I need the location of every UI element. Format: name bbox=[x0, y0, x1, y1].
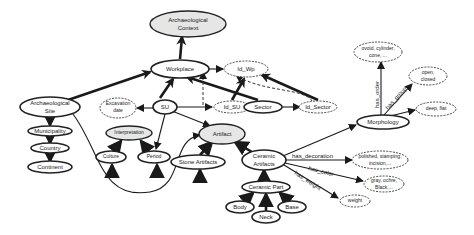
node-su[interactable]: SU bbox=[153, 100, 177, 114]
edge-ceramic-morphology bbox=[283, 125, 356, 156]
svg-text:Artifacts: Artifacts bbox=[253, 161, 275, 167]
node-neck[interactable]: Neck bbox=[252, 211, 280, 223]
node-artifact[interactable]: Artifact bbox=[199, 124, 245, 144]
svg-text:Culture: Culture bbox=[103, 153, 119, 159]
svg-text:Municipality: Municipality bbox=[34, 128, 65, 134]
svg-text:Period: Period bbox=[147, 153, 162, 159]
edge-stone-artifact bbox=[200, 142, 212, 155]
label-has-order: has_order bbox=[374, 81, 380, 108]
svg-text:Artifact: Artifact bbox=[213, 131, 232, 137]
node-interpretation[interactable]: Interpretation bbox=[106, 126, 152, 140]
svg-text:Sector: Sector bbox=[254, 104, 271, 110]
node-excavation-date[interactable]: Excavation date bbox=[100, 98, 136, 118]
node-arch-context[interactable]: Archaeological Context bbox=[150, 11, 226, 37]
svg-text:polished, stamping,: polished, stamping, bbox=[358, 153, 401, 159]
svg-text:Id_SU: Id_SU bbox=[224, 104, 241, 110]
svg-text:Continent: Continent bbox=[37, 164, 63, 170]
edge-workplace-context bbox=[180, 37, 182, 59]
svg-text:date: date bbox=[113, 107, 123, 113]
edge-base-part bbox=[280, 193, 289, 201]
svg-text:Excavation: Excavation bbox=[106, 100, 131, 106]
svg-text:Workplace: Workplace bbox=[166, 66, 195, 72]
svg-text:deep, flat: deep, flat bbox=[426, 105, 447, 111]
node-weight[interactable]: weight bbox=[340, 195, 370, 207]
edge-culture-interpretation bbox=[114, 141, 121, 150]
label-has-decoration: has_decoration bbox=[292, 153, 333, 159]
node-open-closed[interactable]: open, closed bbox=[409, 67, 447, 85]
edge-idsu-idwp bbox=[232, 79, 244, 100]
svg-text:SU: SU bbox=[161, 104, 169, 110]
node-period[interactable]: Period bbox=[138, 151, 170, 163]
svg-text:Id_Sector: Id_Sector bbox=[305, 104, 331, 110]
svg-text:Neck: Neck bbox=[259, 214, 274, 220]
svg-text:cone, ...: cone, ... bbox=[369, 52, 387, 58]
edge-su-period bbox=[156, 114, 165, 149]
edge-sector-workplace bbox=[187, 77, 258, 100]
ontology-diagram: has_decoration has_color has_weight has_… bbox=[0, 0, 474, 235]
svg-text:Base: Base bbox=[285, 204, 299, 210]
edge-body-part bbox=[244, 193, 253, 201]
node-decoration-values[interactable]: polished, stamping, incision,... bbox=[352, 151, 408, 169]
svg-text:weight: weight bbox=[348, 197, 363, 203]
edge-period-interpretation bbox=[141, 141, 148, 150]
node-stone-artifacts[interactable]: Stone Artifacts bbox=[171, 155, 225, 169]
label-has-color: has_color bbox=[308, 165, 335, 177]
node-morphology[interactable]: Morphology bbox=[357, 115, 409, 129]
node-continent[interactable]: Continent bbox=[28, 161, 72, 173]
svg-text:Site: Site bbox=[45, 108, 56, 114]
svg-text:closed: closed bbox=[421, 76, 436, 82]
node-ceramic-artifacts[interactable]: Ceramic Artifacts bbox=[242, 150, 286, 170]
node-ceramic-part[interactable]: Ceramic Part bbox=[242, 181, 290, 193]
node-workplace[interactable]: Workplace bbox=[151, 60, 209, 78]
svg-text:Ceramic Part: Ceramic Part bbox=[248, 184, 283, 190]
svg-text:Morphology: Morphology bbox=[367, 119, 398, 125]
label-has-group: has_group bbox=[384, 85, 408, 111]
edge-idsector-idwp bbox=[262, 75, 318, 100]
edge-site-workplace bbox=[68, 72, 150, 100]
edge-su-artifact bbox=[172, 111, 210, 126]
node-municipality[interactable]: Municipality bbox=[28, 126, 72, 136]
node-culture[interactable]: Culture bbox=[96, 151, 126, 163]
node-country[interactable]: Country bbox=[31, 143, 69, 153]
svg-text:incision,...: incision,... bbox=[369, 160, 391, 166]
svg-text:Country: Country bbox=[39, 145, 60, 151]
svg-text:Interpretation: Interpretation bbox=[114, 129, 144, 135]
svg-text:Archaeological: Archaeological bbox=[168, 17, 207, 23]
node-sector[interactable]: Sector bbox=[244, 101, 282, 113]
node-arch-site[interactable]: Archaeological Site bbox=[20, 97, 80, 117]
svg-text:ovoid, cylinder,: ovoid, cylinder, bbox=[361, 45, 394, 51]
svg-text:Archaeological: Archaeological bbox=[30, 100, 69, 106]
svg-text:Stone Artifacts: Stone Artifacts bbox=[179, 159, 218, 165]
svg-text:Context: Context bbox=[178, 25, 199, 31]
edge-ceramic-artifact bbox=[235, 142, 252, 152]
svg-text:Ceramic: Ceramic bbox=[253, 153, 275, 159]
node-id-sector[interactable]: Id_Sector bbox=[299, 101, 337, 113]
svg-text:open,: open, bbox=[422, 69, 435, 75]
node-id-wp[interactable]: Id_Wp bbox=[224, 61, 268, 77]
svg-text:Black,...: Black,... bbox=[375, 184, 393, 190]
node-color-values[interactable]: gray, ochre, Black,... bbox=[364, 176, 404, 192]
svg-text:gray, ochre,: gray, ochre, bbox=[371, 177, 397, 183]
node-body[interactable]: Body bbox=[226, 201, 254, 213]
svg-text:Id_Wp: Id_Wp bbox=[237, 66, 255, 72]
edge-su-workplace bbox=[160, 79, 173, 98]
svg-text:Body: Body bbox=[233, 204, 247, 210]
node-base[interactable]: Base bbox=[278, 201, 306, 213]
node-shape-values[interactable]: ovoid, cylinder, cone, ... bbox=[354, 42, 402, 62]
node-deep-flat[interactable]: deep, flat bbox=[416, 102, 456, 116]
